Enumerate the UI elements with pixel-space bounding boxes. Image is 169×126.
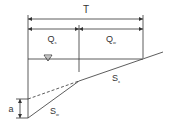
flow-left-label: Qs: [47, 34, 56, 45]
extended-cross-slope-dashed: [28, 81, 79, 99]
depression-label: a: [8, 104, 13, 114]
road-slope-label: Sx: [112, 73, 120, 84]
flow-right-label: Qw: [106, 34, 116, 45]
top-width-label: T: [83, 4, 89, 15]
road-cross-slope-line: [79, 52, 163, 81]
water-surface-icon: [44, 55, 52, 61]
gutter-section-diagram: T Qs Qw Sx Sw a: [0, 0, 169, 126]
gutter-slope-label: Sw: [50, 106, 59, 117]
